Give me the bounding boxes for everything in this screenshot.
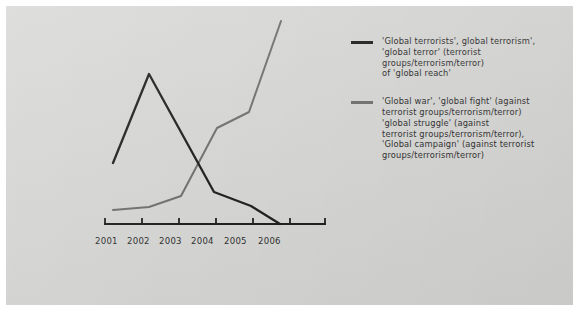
x-tick-label-2003: 2003 xyxy=(159,236,182,246)
legend-label-global-war: 'Global war', 'global fight' (against te… xyxy=(382,96,534,161)
x-tick-label-2001: 2001 xyxy=(95,236,118,246)
legend-entry-global-terrorists: 'Global terrorists', global terrorism', … xyxy=(351,36,579,79)
series-line-global-war xyxy=(113,21,281,210)
x-tick-label-2006: 2006 xyxy=(258,236,281,246)
figure-container: 2001 2002 2003 2004 2005 2006 'Global te… xyxy=(0,0,579,311)
x-tick-label-2002: 2002 xyxy=(127,236,150,246)
legend-swatch-grey xyxy=(351,101,373,104)
x-tick-label-2005: 2005 xyxy=(224,236,247,246)
x-tick-label-2004: 2004 xyxy=(191,236,214,246)
legend-label-global-terrorists: 'Global terrorists', global terrorism', … xyxy=(382,36,535,79)
legend-entry-global-war: 'Global war', 'global fight' (against te… xyxy=(351,96,579,161)
chart-legend: 'Global terrorists', global terrorism', … xyxy=(351,36,579,178)
legend-swatch-black xyxy=(351,41,373,44)
